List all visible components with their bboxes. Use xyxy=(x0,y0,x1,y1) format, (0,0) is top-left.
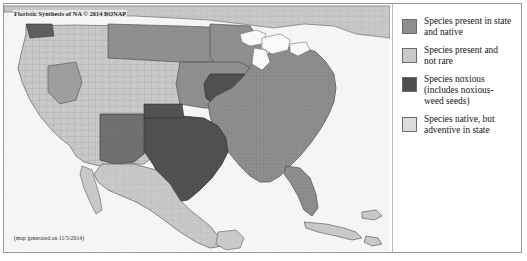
map-generated-date: (map generated on 11/5/2014) xyxy=(13,235,85,241)
legend-list: Species present in state and native Spec… xyxy=(402,16,514,143)
swatch-present-not-rare xyxy=(402,48,417,63)
legend-item-native-adventive[interactable]: Species native, but adventive in state xyxy=(402,114,514,137)
swatch-native-adventive xyxy=(402,117,417,132)
map-panel[interactable]: Floristic Synthesis of NA © 2014 BONAP (… xyxy=(4,4,390,252)
map-stage: Floristic Synthesis of NA © 2014 BONAP (… xyxy=(4,4,390,252)
legend-label-noxious: Species noxious (includes noxious-weed s… xyxy=(424,74,512,108)
swatch-noxious xyxy=(402,77,417,92)
legend-item-present-not-rare[interactable]: Species present and not rare xyxy=(402,45,514,68)
legend-label-present-native: Species present in state and native xyxy=(424,16,512,39)
legend-label-native-adventive: Species native, but adventive in state xyxy=(424,114,512,137)
legend-item-noxious[interactable]: Species noxious (includes noxious-weed s… xyxy=(402,74,514,108)
map-credit-text: Floristic Synthesis of NA © 2014 BONAP xyxy=(13,10,127,17)
bonap-distribution-figure: Floristic Synthesis of NA © 2014 BONAP (… xyxy=(0,0,527,261)
legend-label-present-not-rare: Species present and not rare xyxy=(424,45,512,68)
legend-item-present-native[interactable]: Species present in state and native xyxy=(402,16,514,39)
map-graphic xyxy=(4,4,390,252)
swatch-present-native xyxy=(402,19,417,34)
legend-panel: Species present in state and native Spec… xyxy=(392,4,518,252)
